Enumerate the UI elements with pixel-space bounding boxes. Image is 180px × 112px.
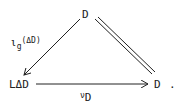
- label-nu-d: νD: [80, 92, 91, 104]
- equality-top-to-bottom-right: [95, 17, 155, 74]
- label-iota-main: ι: [10, 36, 17, 49]
- trailing-period: .: [169, 79, 176, 90]
- node-bottom-right: D: [154, 79, 161, 90]
- label-nu-main: ν: [80, 91, 85, 100]
- label-iota-arg: (ΔD): [21, 36, 40, 45]
- node-bottom-left: LΔD: [9, 79, 29, 90]
- label-nu-sub: D: [85, 91, 92, 104]
- label-iota-g: ιg(ΔD): [10, 37, 41, 49]
- node-top: D: [82, 9, 89, 20]
